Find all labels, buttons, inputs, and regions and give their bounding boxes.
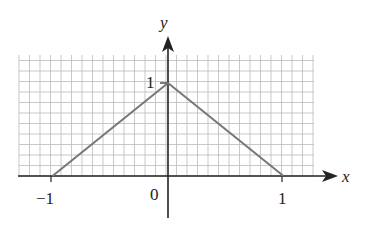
grid — [19, 55, 314, 176]
tick-label-0: 0 — [150, 186, 159, 203]
tick-label-y1: 1 — [146, 74, 155, 91]
tick-label-neg1: −1 — [36, 190, 54, 207]
tick-label-1: 1 — [278, 190, 287, 207]
x-axis-label: x — [342, 168, 350, 185]
y-axis-label: y — [160, 14, 168, 31]
chart-canvas — [0, 0, 369, 226]
